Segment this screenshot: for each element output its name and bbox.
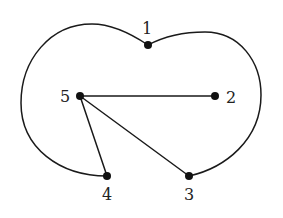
node-label-5: 5 — [60, 87, 70, 106]
node-4 — [103, 172, 111, 180]
edge-5-4 — [80, 96, 107, 176]
node-5 — [76, 92, 84, 100]
node-label-2: 2 — [226, 88, 236, 107]
node-2 — [211, 92, 219, 100]
node-label-4: 4 — [102, 185, 112, 204]
graph-diagram: 1 2 3 4 5 — [0, 0, 283, 218]
node-label-1: 1 — [142, 19, 152, 38]
edge-5-3 — [80, 96, 189, 176]
edge-1-3 — [148, 32, 261, 176]
node-label-3: 3 — [184, 185, 194, 204]
node-3 — [185, 172, 193, 180]
node-1 — [144, 41, 152, 49]
